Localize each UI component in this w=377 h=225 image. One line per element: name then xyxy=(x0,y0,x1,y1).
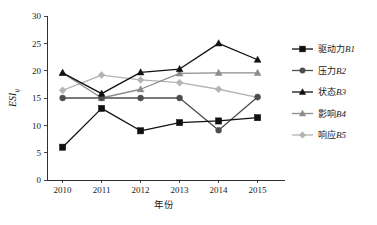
series-b4 xyxy=(59,69,261,100)
legend-label: 状态B3 xyxy=(318,86,346,97)
x-tick-label: 2012 xyxy=(132,185,150,195)
x-tick-label: 2010 xyxy=(54,185,73,195)
legend-label: 响应B5 xyxy=(318,129,346,140)
legend-label: 压力B2 xyxy=(318,65,346,76)
data-point-marker xyxy=(59,69,66,75)
y-tick-label: 25 xyxy=(32,39,42,49)
x-tick-label: 2015 xyxy=(249,185,268,195)
data-point-marker xyxy=(300,68,306,74)
series-line xyxy=(63,75,258,97)
data-point-marker xyxy=(98,71,105,78)
series-line xyxy=(63,97,258,130)
data-point-marker xyxy=(138,128,144,134)
x-tick-label: 2014 xyxy=(210,185,229,195)
data-point-marker xyxy=(299,132,305,139)
y-tick-label: 0 xyxy=(37,175,42,185)
data-point-marker xyxy=(177,120,183,126)
y-tick-label: 10 xyxy=(32,121,42,131)
x-axis-title: 年份 xyxy=(154,199,174,210)
series-line xyxy=(63,43,258,93)
legend-label: 驱动力B1 xyxy=(318,43,355,54)
legend-item-b3[interactable]: 状态B3 xyxy=(292,86,346,97)
y-tick-label: 30 xyxy=(32,11,42,21)
series-b1 xyxy=(60,105,261,150)
data-point-marker xyxy=(255,115,261,121)
axes xyxy=(44,16,285,183)
data-point-marker xyxy=(99,105,105,111)
y-axis-title: ESIij xyxy=(7,89,20,108)
y-tick-label: 20 xyxy=(32,66,42,76)
x-tick-label: 2011 xyxy=(93,185,111,195)
data-point-marker xyxy=(215,86,222,93)
data-point-marker xyxy=(216,118,222,124)
data-point-marker xyxy=(300,46,306,52)
data-point-marker xyxy=(215,40,222,46)
line-chart: 051015202530201020112012201320142015年份ES… xyxy=(0,0,377,225)
x-tick-label: 2013 xyxy=(171,185,190,195)
data-point-marker xyxy=(60,144,66,150)
data-point-marker xyxy=(59,87,66,94)
data-point-marker xyxy=(137,76,144,83)
chart-legend: 驱动力B1压力B2状态B3影响B4响应B5 xyxy=(292,43,355,140)
chart-container: 051015202530201020112012201320142015年份ES… xyxy=(0,0,377,225)
y-tick-label: 15 xyxy=(32,93,42,103)
data-point-marker xyxy=(138,95,144,101)
data-point-marker xyxy=(98,90,105,96)
legend-item-b2[interactable]: 压力B2 xyxy=(292,65,346,76)
legend-label: 影响B4 xyxy=(318,108,346,119)
y-tick-label: 5 xyxy=(37,148,42,158)
series-b5 xyxy=(59,71,261,101)
data-point-marker xyxy=(255,94,261,100)
series-line xyxy=(63,108,258,147)
legend-item-b1[interactable]: 驱动力B1 xyxy=(292,43,355,54)
series-b3 xyxy=(59,40,261,96)
data-point-marker xyxy=(60,95,66,101)
legend-item-b4[interactable]: 影响B4 xyxy=(292,108,346,119)
data-point-marker xyxy=(216,127,222,133)
legend-item-b5[interactable]: 响应B5 xyxy=(292,129,346,140)
data-point-marker xyxy=(176,79,183,86)
series-line xyxy=(63,73,258,98)
series-layer xyxy=(59,40,261,151)
data-point-marker xyxy=(176,65,183,71)
data-point-marker xyxy=(177,95,183,101)
